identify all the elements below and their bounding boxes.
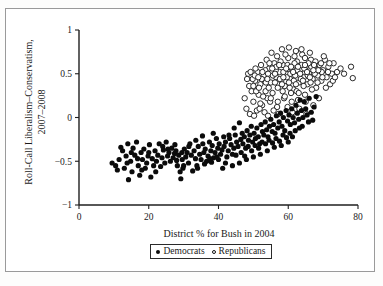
data-point xyxy=(278,111,283,116)
data-point xyxy=(321,54,326,59)
y-axis-title-line2: 2007–2008 xyxy=(36,90,47,135)
data-point xyxy=(292,120,297,125)
data-point xyxy=(193,138,198,143)
data-point xyxy=(249,124,254,129)
y-tick-label: −1 xyxy=(62,200,72,210)
data-point xyxy=(327,61,332,66)
data-point xyxy=(118,145,123,150)
data-point xyxy=(245,128,250,133)
data-point xyxy=(256,134,261,139)
data-point xyxy=(257,106,262,111)
data-point xyxy=(295,64,300,69)
data-point xyxy=(233,132,238,137)
data-point xyxy=(270,66,275,71)
data-point xyxy=(137,173,142,178)
data-point xyxy=(140,157,145,162)
data-point xyxy=(117,157,122,162)
data-point xyxy=(300,124,305,129)
data-point xyxy=(146,150,151,155)
data-point xyxy=(251,99,256,104)
data-point xyxy=(280,89,285,94)
data-point xyxy=(307,75,312,80)
legend: Democrats Republicans xyxy=(150,244,272,259)
data-point xyxy=(281,75,286,80)
data-point xyxy=(220,166,225,171)
data-point xyxy=(276,62,281,67)
data-point xyxy=(251,83,256,88)
data-point xyxy=(235,144,240,149)
data-point xyxy=(253,66,258,71)
y-tick-label: 1 xyxy=(67,25,72,35)
data-point xyxy=(272,145,277,150)
data-point xyxy=(277,119,282,124)
data-point xyxy=(186,144,191,149)
data-point xyxy=(286,45,291,50)
data-point xyxy=(198,157,203,162)
data-point xyxy=(288,90,293,95)
figure-container: 10.50−0.5−1 020406080 Roll-Call Liberali… xyxy=(0,0,383,286)
legend-item-republicans: Republicans xyxy=(212,247,266,257)
data-point xyxy=(265,148,270,153)
data-point xyxy=(159,155,164,160)
data-point xyxy=(126,177,131,182)
data-point xyxy=(196,144,201,149)
data-point xyxy=(301,83,306,88)
data-point xyxy=(296,90,301,95)
data-point xyxy=(297,71,302,76)
data-point xyxy=(303,106,308,111)
legend-label-republicans: Republicans xyxy=(219,247,266,257)
data-point xyxy=(223,139,228,144)
y-tick-label: −0.5 xyxy=(55,157,72,167)
data-point xyxy=(267,61,272,66)
data-point xyxy=(306,119,311,124)
data-point xyxy=(186,160,191,165)
data-point xyxy=(302,92,307,97)
data-point xyxy=(221,134,226,139)
data-point xyxy=(158,164,163,169)
data-point xyxy=(302,62,307,67)
data-point xyxy=(289,106,294,111)
data-point xyxy=(147,142,152,147)
data-point xyxy=(284,108,289,113)
data-point xyxy=(244,106,249,111)
x-tick-label: 80 xyxy=(353,212,363,222)
data-point xyxy=(224,154,229,159)
data-point xyxy=(237,120,242,125)
data-point xyxy=(129,169,134,174)
data-point xyxy=(308,80,313,85)
data-point xyxy=(141,146,146,151)
data-point xyxy=(304,69,309,74)
data-point xyxy=(270,90,275,95)
y-tick-label: 0.5 xyxy=(60,69,72,79)
data-point xyxy=(282,94,287,99)
data-point xyxy=(115,167,120,172)
data-point xyxy=(226,148,231,153)
data-point xyxy=(242,134,247,139)
y-tick-label: 0 xyxy=(67,113,72,123)
legend-label-democrats: Democrats xyxy=(163,247,204,257)
data-point xyxy=(266,85,271,90)
data-point xyxy=(299,47,304,52)
data-point xyxy=(300,78,305,83)
x-axis-title: District % for Bush in 2004 xyxy=(79,228,359,239)
data-point xyxy=(173,148,178,153)
data-point xyxy=(265,76,270,81)
data-point xyxy=(200,133,205,138)
data-point xyxy=(279,124,284,129)
data-point xyxy=(283,52,288,57)
data-point xyxy=(214,136,219,141)
data-point xyxy=(286,139,291,144)
data-point xyxy=(307,50,312,55)
data-point xyxy=(258,101,263,106)
data-point xyxy=(242,96,247,101)
data-point xyxy=(287,85,292,90)
data-point xyxy=(279,143,284,148)
data-point xyxy=(348,64,353,69)
data-point xyxy=(309,87,314,92)
data-point xyxy=(268,96,273,101)
data-point xyxy=(320,75,325,80)
data-point xyxy=(160,144,165,149)
data-point xyxy=(290,69,295,74)
data-point xyxy=(153,169,158,174)
data-point xyxy=(258,62,263,67)
